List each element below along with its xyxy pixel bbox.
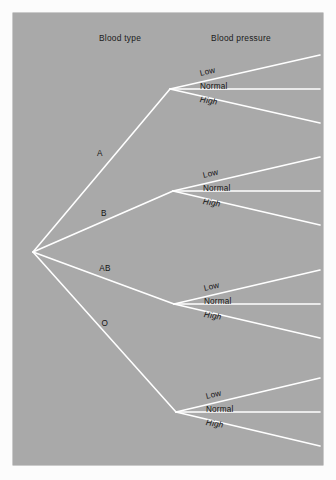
branch-line-b-high [173,191,320,225]
blood-pressure-label-o-normal: Normal [206,405,234,414]
tree-branches-svg [13,13,323,465]
column-header-blood-pressure: Blood pressure [211,33,271,43]
branch-line-type-ab [33,252,174,304]
diagram-panel: Blood type Blood pressure ABABO LowNorma… [13,13,323,465]
branch-line-ab-low [174,270,320,304]
blood-type-label-o: O [102,319,109,328]
branch-line-type-a [33,89,170,252]
branch-line-o-high [176,412,320,446]
branch-line-type-b [33,191,173,252]
branch-line-type-o [33,252,176,412]
branch-line-o-low [176,378,320,412]
column-header-blood-type: Blood type [99,33,141,43]
diagram-page: Blood type Blood pressure ABABO LowNorma… [0,0,336,480]
blood-pressure-label-ab-normal: Normal [204,297,232,306]
branch-line-a-high [170,89,320,123]
blood-type-label-a: A [97,149,103,158]
blood-type-label-b: B [101,209,107,218]
blood-type-label-ab: AB [99,264,111,273]
branch-line-group [33,55,320,446]
blood-pressure-label-b-normal: Normal [203,184,231,193]
branch-line-ab-high [174,304,320,338]
blood-pressure-label-a-normal: Normal [200,82,228,91]
branch-line-b-low [173,157,320,191]
branch-line-a-low [170,55,320,89]
